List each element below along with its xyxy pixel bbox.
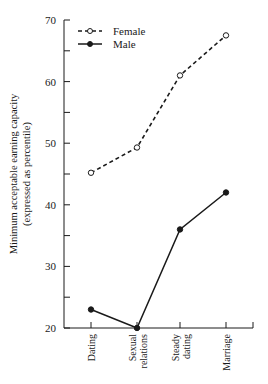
line-chart: 203040506070 DatingSexualrelationsSteady… (0, 0, 268, 384)
female-marker (134, 145, 139, 150)
male-line (91, 192, 226, 328)
male-legend-marker (88, 42, 93, 47)
y-tick-label: 30 (45, 260, 57, 272)
y-tick-label: 70 (45, 14, 57, 26)
legend-label: Female (113, 25, 145, 37)
y-axis-ticks: 203040506070 (45, 14, 70, 334)
x-tick-label: relations (138, 334, 149, 369)
x-tick-label: Sexual (127, 334, 138, 361)
x-tick-label: Dating (86, 334, 97, 361)
female-legend-marker (88, 29, 93, 34)
y-tick-label: 20 (45, 322, 57, 334)
female-marker (177, 73, 182, 78)
x-tick-label: Marriage (221, 333, 232, 370)
x-tick-label: dating (181, 334, 192, 359)
y-tick-label: 40 (45, 199, 57, 211)
legend: FemaleMale (78, 25, 145, 50)
y-tick-label: 60 (45, 76, 57, 88)
y-axis-subtitle: (expressed as percentile) (21, 122, 33, 226)
female-line (91, 35, 226, 172)
male-marker (88, 307, 93, 312)
y-axis-title: Minimum acceptable earning capacity (8, 93, 19, 254)
x-axis-ticks: DatingSexualrelationsSteadydatingMarriag… (86, 322, 253, 371)
x-tick-label: Steady (170, 334, 181, 361)
male-marker (223, 190, 228, 195)
female-marker (223, 33, 228, 38)
female-marker (88, 170, 93, 175)
series-lines (88, 33, 228, 331)
y-axis-label: Minimum acceptable earning capacity(expr… (8, 93, 33, 254)
male-marker (177, 227, 182, 232)
y-tick-label: 50 (45, 137, 57, 149)
male-marker (134, 325, 139, 330)
legend-label: Male (113, 38, 136, 50)
